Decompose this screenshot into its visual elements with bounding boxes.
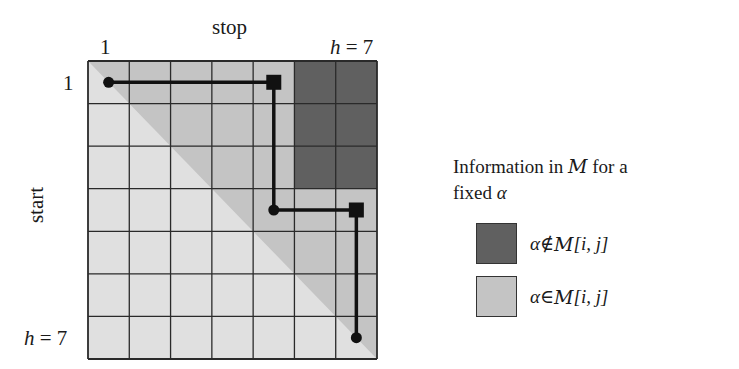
legend-title-text: Information in: [453, 156, 568, 177]
in-relation: ∈: [540, 284, 554, 310]
equals-seven: = 7: [341, 35, 374, 59]
matrix-symbol: M: [554, 231, 573, 257]
legend-title-text: for a: [588, 156, 628, 177]
stop-axis-label: stop: [212, 17, 247, 38]
start-axis-label: start: [26, 187, 47, 223]
h-variable: h: [24, 326, 35, 350]
start-tick-end: h = 7: [24, 328, 67, 349]
path-node-circle: [351, 332, 362, 343]
not-in-relation: ∉: [540, 231, 554, 257]
legend-swatch-light: [476, 276, 517, 317]
path-node-circle: [268, 205, 279, 216]
alpha-symbol: α: [530, 284, 540, 310]
legend: Information in M for a fixed α α ∉ M[i, …: [453, 153, 723, 206]
legend-title: Information in M for a fixed α: [453, 153, 723, 206]
start-tick-start: 1: [63, 73, 74, 94]
stop-tick-start: 1: [100, 37, 111, 58]
path-node-circle: [103, 77, 114, 88]
index-args: [i, j]: [574, 284, 609, 310]
legend-title-text: fixed: [453, 182, 497, 203]
alpha-symbol: α: [530, 231, 540, 257]
matrix-symbol: M: [568, 155, 587, 177]
path-node-square: [349, 203, 364, 218]
legend-item-in: α ∈ M[i, j]: [476, 276, 608, 317]
legend-swatch-dark: [476, 223, 517, 264]
matrix-symbol: M: [554, 284, 573, 310]
equals-seven: = 7: [35, 326, 68, 350]
stop-tick-end: h = 7: [330, 37, 373, 58]
legend-item-not-in: α ∉ M[i, j]: [476, 223, 608, 264]
index-args: [i, j]: [574, 231, 609, 257]
path-node-square: [266, 75, 281, 90]
alpha-symbol: α: [497, 182, 507, 203]
h-variable: h: [330, 35, 341, 59]
